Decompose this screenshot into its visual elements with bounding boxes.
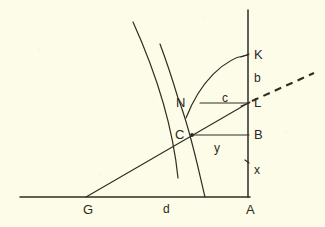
dashed-ray-from-L [252, 73, 314, 101]
geometry-diagram: A B C G K L N b c d x y [0, 0, 325, 227]
point-label-B: B [254, 128, 263, 141]
curve-descending [133, 22, 178, 178]
segment-label-y: y [214, 142, 220, 154]
point-marker-C [190, 133, 194, 137]
segment-label-x: x [254, 164, 260, 176]
segment-label-b: b [254, 72, 261, 84]
point-label-K: K [254, 48, 263, 61]
point-label-L: L [254, 96, 261, 109]
segment-label-c: c [222, 92, 228, 104]
figure-canvas [0, 0, 325, 227]
chord-G-through-C-to-L [86, 102, 250, 197]
point-label-G: G [83, 203, 93, 216]
point-label-A: A [246, 203, 255, 216]
segment-label-d: d [163, 203, 170, 215]
point-label-N: N [176, 96, 185, 109]
curve-rising [160, 44, 205, 197]
point-label-C: C [175, 128, 184, 141]
